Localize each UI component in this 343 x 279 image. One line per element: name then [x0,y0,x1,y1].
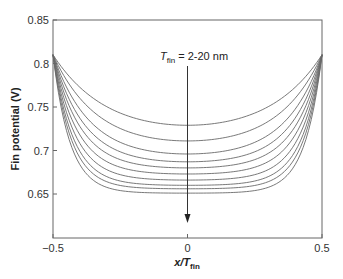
x-tick-label: −0.5 [42,242,64,254]
x-axis-ticks: −0.500.5 [42,234,330,254]
fin-potential-chart: 0.650.70.750.80.85 −0.500.5 Tfin = 2-20 … [0,0,343,279]
y-tick-label: 0.85 [28,14,49,26]
y-tick-label: 0.8 [34,58,49,70]
y-tick-label: 0.75 [28,101,49,113]
x-tick-label: 0.5 [314,242,329,254]
annotation-label: Tfin = 2-20 nm [160,50,228,65]
y-axis-label: Fin potential (V) [9,87,21,170]
y-tick-label: 0.7 [34,145,49,157]
x-tick-label: 0 [184,242,190,254]
arrow-down-icon [185,214,191,223]
y-tick-label: 0.65 [28,188,49,200]
x-axis-label: x/Tfin [173,256,200,271]
